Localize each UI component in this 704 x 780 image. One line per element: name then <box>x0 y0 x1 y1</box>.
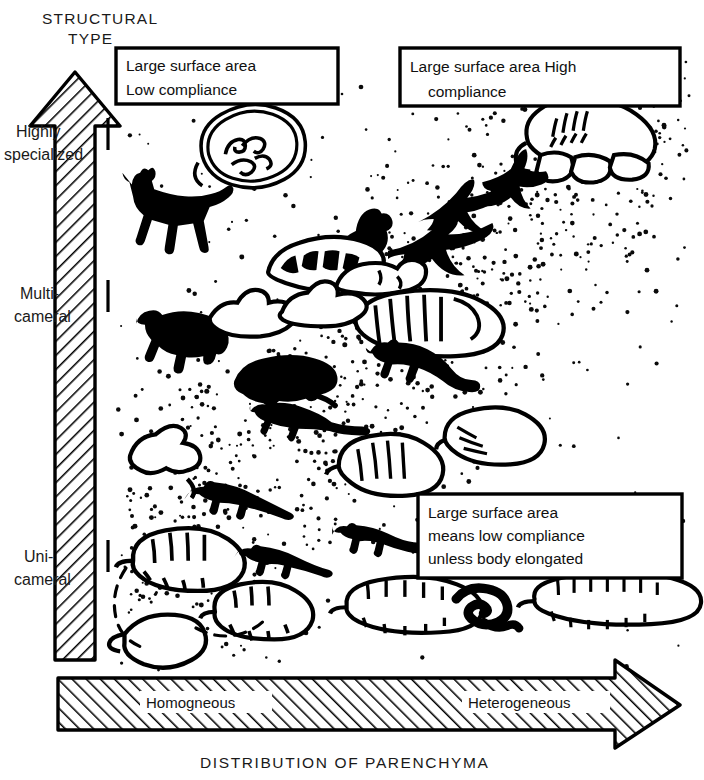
y-tick-highly-line2: specialized <box>4 146 83 163</box>
callout-top-left-line1: Large surface area <box>126 57 256 74</box>
figure-canvas: STRUCTURAL TYPE Highly specialized Multi… <box>0 0 704 780</box>
x-axis-title: DISTRIBUTION OF PARENCHYMA <box>200 754 489 771</box>
callout-bottom-right-line3: unless body elongated <box>428 550 583 567</box>
callout-bottom-right: Large surface area means low compliance … <box>418 494 682 578</box>
x-label-heterogeneous: Heterogeneous <box>468 694 571 711</box>
callout-bottom-right-line2: means low compliance <box>428 527 585 544</box>
x-label-homogeneous: Homogneous <box>146 694 235 711</box>
y-axis-title-line2: TYPE <box>68 30 113 47</box>
y-tick-highly-line1: Highly <box>16 123 60 140</box>
y-tick-uni-line1: Uni- <box>24 548 53 565</box>
y-tick-multi-line2: cameral <box>14 308 71 325</box>
callout-top-right-line1: Large surface area High <box>410 58 576 75</box>
callout-top-right: Large surface area High compliance <box>400 48 680 106</box>
callout-top-left: Large surface area Low compliance <box>116 48 338 104</box>
y-tick-multi-line1: Multi- <box>20 285 59 302</box>
y-axis-title-line1: STRUCTURAL <box>42 10 158 27</box>
y-tick-uni-line2: cameral <box>14 571 71 588</box>
callout-top-left-line2: Low compliance <box>126 81 237 98</box>
point-bird-lung <box>516 98 656 183</box>
callout-top-right-line2: compliance <box>428 83 506 100</box>
callout-bottom-right-line1: Large surface area <box>428 504 558 521</box>
